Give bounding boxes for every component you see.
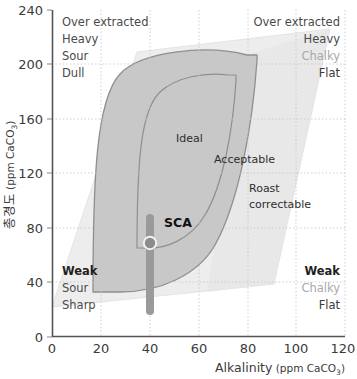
y-axis-title: 총경도 (ppm CaCO3): [2, 121, 19, 230]
annotation-line: Flat: [319, 298, 341, 312]
y-axis-title-unit-open: (ppm CaCO: [4, 130, 16, 194]
y-axis-title-main: 총경도: [2, 193, 17, 229]
annotation-line: Weak: [305, 264, 341, 278]
annotation-line: Weak: [62, 264, 98, 278]
annotation-line: Sour: [62, 281, 89, 295]
x-axis-title: Alkalinity (ppm CaCO3): [215, 360, 345, 377]
annotation-line: Heavy: [62, 32, 99, 46]
x-tick-label: 80: [240, 341, 257, 356]
x-axis-title-unit-open: (ppm CaCO: [272, 362, 336, 374]
x-tick-label: 40: [142, 341, 159, 356]
annotation-line: Chalky: [301, 49, 340, 63]
annotation-line: Over extracted: [62, 15, 149, 29]
x-tick-label: 100: [284, 341, 309, 356]
annotation-line: Sharp: [62, 298, 96, 312]
y-tick-label: 40: [26, 275, 43, 290]
sca-range-bar[interactable]: [146, 214, 154, 315]
y-axis-title-unit-close: ): [4, 121, 16, 125]
zone-label-acceptable: Acceptable: [214, 153, 275, 166]
zone-label-roast-1: Roast: [249, 182, 280, 195]
x-tick-label: 120: [331, 341, 356, 356]
zone-label-ideal: Ideal: [176, 132, 203, 145]
y-tick-label: 160: [18, 112, 43, 127]
y-tick-label: 240: [18, 3, 43, 18]
x-tick-label: 20: [93, 341, 110, 356]
annotation-line: Dull: [62, 66, 85, 80]
zone-label-sca: SCA: [164, 215, 192, 230]
y-tick-label: 120: [18, 166, 43, 181]
y-tick-labels: 240 200 160 120 80 40 0: [18, 3, 43, 345]
annotation-line: Heavy: [304, 32, 341, 46]
x-axis-title-unit-close: ): [341, 362, 345, 374]
x-tick-label: 60: [191, 341, 208, 356]
zone-label-roast-2: correctable: [249, 198, 311, 211]
annotation-line: Flat: [319, 66, 341, 80]
annotation-line: Chalky: [301, 281, 340, 295]
y-tick-label: 0: [35, 330, 43, 345]
y-tick-label: 80: [26, 221, 43, 236]
x-axis-title-main: Alkalinity: [215, 360, 273, 375]
annotation-line: Sour: [62, 49, 89, 63]
x-tick-labels: 0 20 40 60 80 100 120: [48, 341, 356, 356]
y-tick-marks: [47, 10, 52, 337]
x-tick-label: 0: [48, 341, 56, 356]
water-chemistry-chart: 240 200 160 120 80 40 0 0 20 40 60 80 10…: [0, 0, 357, 379]
y-tick-label: 200: [18, 57, 43, 72]
chart-svg: 240 200 160 120 80 40 0 0 20 40 60 80 10…: [0, 0, 357, 379]
sca-point-dot[interactable]: [144, 237, 156, 249]
annotation-line: Over extracted: [254, 15, 341, 29]
